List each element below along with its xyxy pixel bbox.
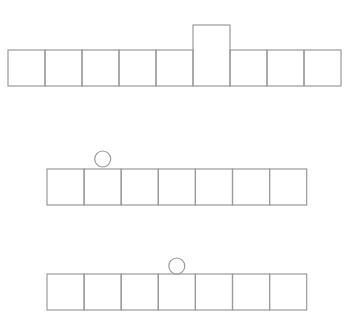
grid-cell [233, 169, 270, 205]
grid-cell [84, 169, 121, 205]
row-1 [8, 25, 341, 86]
grid-cell [82, 50, 119, 86]
grid-cell [230, 50, 267, 86]
grid-strips-diagram [0, 0, 348, 313]
grid-cell [45, 50, 82, 86]
grid-cell [158, 274, 195, 310]
grid-cell [47, 274, 84, 310]
grid-cell [270, 274, 307, 310]
grid-cell [195, 274, 232, 310]
row-2 [47, 151, 307, 205]
circle-marker [169, 258, 185, 274]
grid-cell [121, 169, 158, 205]
grid-cell [8, 50, 45, 86]
row-3 [47, 258, 307, 310]
grid-cell [121, 274, 158, 310]
grid-cell [233, 274, 270, 310]
grid-cell [119, 50, 156, 86]
raised-cell [193, 25, 230, 86]
grid-cell [156, 50, 193, 86]
grid-cell [158, 169, 195, 205]
grid-cell [304, 50, 341, 86]
grid-cell [267, 50, 304, 86]
grid-cell [270, 169, 307, 205]
grid-cell [195, 169, 232, 205]
circle-marker [95, 151, 111, 167]
grid-cell [47, 169, 84, 205]
grid-cell [84, 274, 121, 310]
